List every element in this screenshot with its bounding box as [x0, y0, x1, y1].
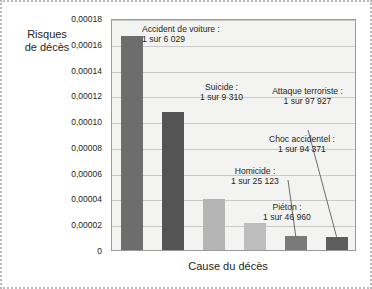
y-axis-tick-4: 0,00010 — [40, 118, 102, 126]
callout-homicide: Homicide :1 sur 25 123 — [210, 166, 300, 186]
callout-title-suicide: Suicide : — [205, 82, 238, 92]
callout-suicide: Suicide :1 sur 9 310 — [174, 82, 269, 102]
y-axis-tick-9: 0 — [40, 247, 102, 255]
callout-odds-pieton: 1 sur 46 960 — [246, 212, 328, 222]
x-axis-title: Cause du décès — [102, 260, 354, 272]
y-axis-tick-7: 0,00004 — [40, 195, 102, 203]
y-axis-tick-2: 0,00014 — [40, 67, 102, 75]
callout-odds-suicide: 1 sur 9 310 — [174, 92, 269, 102]
callout-odds-homicide: 1 sur 25 123 — [210, 176, 300, 186]
callout-title-attaque-terroriste: Attaque terroriste : — [272, 86, 343, 96]
y-axis-title-line1: Risques — [27, 28, 67, 40]
callout-pieton: Piéton :1 sur 46 960 — [246, 202, 328, 222]
callout-title-choc-accidentel: Choc accidentel : — [269, 134, 335, 144]
callout-odds-accident-de-voiture: 1 sur 6 029 — [142, 34, 257, 44]
callout-accident-de-voiture: Accident de voiture :1 sur 6 029 — [142, 24, 257, 44]
callout-title-accident-de-voiture: Accident de voiture : — [142, 24, 220, 34]
callout-title-homicide: Homicide : — [235, 166, 276, 176]
callout-title-pieton: Piéton : — [272, 202, 301, 212]
callout-choc-accidentel: Choc accidentel :1 sur 94 371 — [252, 134, 352, 154]
plot-area: Accident de voiture :1 sur 6 029Suicide … — [111, 19, 356, 251]
callout-attaque-terroriste: Attaque terroriste :1 sur 97 927 — [258, 86, 357, 106]
y-axis-tick-8: 0,00002 — [40, 221, 102, 229]
y-axis-tick-3: 0,00012 — [40, 92, 102, 100]
callout-odds-choc-accidentel: 1 sur 94 371 — [252, 144, 352, 154]
y-axis-tick-5: 0,00008 — [40, 144, 102, 152]
chart-figure: Risques de décès 0,000180,000160,000140,… — [0, 0, 372, 289]
y-axis-tick-1: 0,00016 — [40, 41, 102, 49]
y-axis-tick-0: 0,00018 — [40, 15, 102, 23]
y-axis-tick-6: 0,00006 — [40, 170, 102, 178]
callout-odds-attaque-terroriste: 1 sur 97 927 — [258, 96, 357, 106]
